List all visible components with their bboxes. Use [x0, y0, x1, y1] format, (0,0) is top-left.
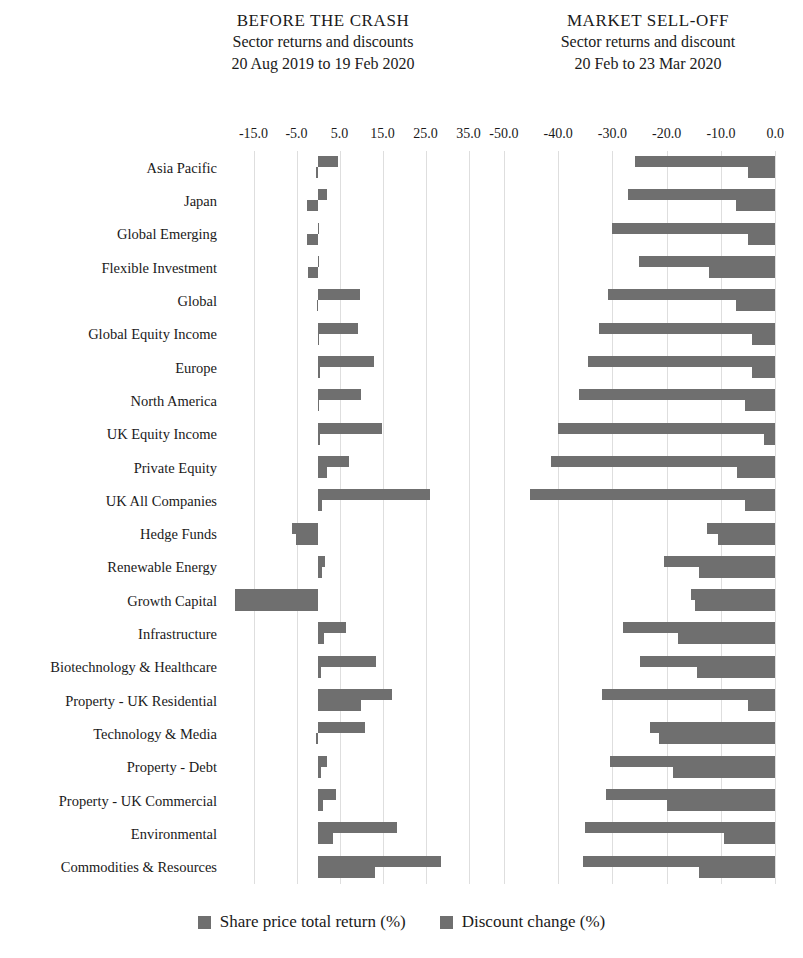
bar-discount-change — [736, 200, 775, 211]
category-label: Asia Pacific — [0, 160, 225, 176]
bar-discount-change — [748, 234, 775, 245]
bar-discount-change — [316, 733, 318, 744]
bar-discount-change — [678, 633, 776, 644]
bar-discount-change — [736, 300, 775, 311]
bar-discount-change — [697, 667, 776, 678]
gridline — [340, 151, 341, 884]
category-label: North America — [0, 393, 225, 409]
chart-container: BEFORE THE CRASH Sector returns and disc… — [0, 0, 803, 958]
right-panel-plot — [493, 151, 778, 884]
bar-discount-change — [748, 700, 775, 711]
axis-tick-label: -40.0 — [544, 126, 573, 142]
category-label: Global Emerging — [0, 226, 225, 242]
legend-item-share-price-total-return: Share price total return (%) — [198, 912, 406, 932]
bar-discount-change — [667, 800, 776, 811]
bar-discount-change — [318, 667, 321, 678]
bar-share-price-total-return — [318, 289, 360, 300]
bar-share-price-total-return — [318, 789, 336, 800]
category-label: UK All Companies — [0, 493, 225, 509]
bar-discount-change — [745, 500, 775, 511]
gridline — [426, 151, 427, 884]
bar-share-price-total-return — [707, 523, 775, 534]
right-panel-period: 20 Feb to 23 Mar 2020 — [498, 53, 798, 75]
category-label: Growth Capital — [0, 593, 225, 609]
bar-share-price-total-return — [612, 223, 775, 234]
bar-discount-change — [318, 434, 320, 445]
axis-tick-label: 15.0 — [370, 126, 395, 142]
bar-share-price-total-return — [639, 256, 775, 267]
axis-tick-label: -15.0 — [239, 126, 268, 142]
bar-discount-change — [318, 467, 327, 478]
category-label: Technology & Media — [0, 726, 225, 742]
bar-share-price-total-return — [318, 556, 325, 567]
axis-tick-label: -30.0 — [598, 126, 627, 142]
bar-share-price-total-return — [235, 589, 318, 600]
axis-tick-label: -50.0 — [489, 126, 518, 142]
axis-tick-label: 0.0 — [767, 126, 785, 142]
bar-share-price-total-return — [551, 456, 775, 467]
category-label: Renewable Energy — [0, 559, 225, 575]
axis-tick-label: 35.0 — [456, 126, 481, 142]
category-label: Commodities & Resources — [0, 859, 225, 875]
bar-discount-change — [318, 334, 319, 345]
axis-tick-label: -20.0 — [652, 126, 681, 142]
category-label: Japan — [0, 193, 225, 209]
bar-share-price-total-return — [318, 489, 430, 500]
bar-discount-change — [318, 633, 324, 644]
axis-tick-label: -5.0 — [285, 126, 307, 142]
bar-share-price-total-return — [628, 189, 776, 200]
bar-share-price-total-return — [579, 389, 775, 400]
category-axis-labels: Asia PacificJapanGlobal EmergingFlexible… — [0, 151, 225, 884]
right-panel-title: MARKET SELL-OFF — [498, 10, 798, 31]
bar-share-price-total-return — [318, 189, 327, 200]
left-panel-title: BEFORE THE CRASH — [148, 10, 498, 31]
bar-share-price-total-return — [318, 622, 346, 633]
bar-share-price-total-return — [318, 156, 338, 167]
bar-share-price-total-return — [588, 356, 775, 367]
bar-discount-change — [745, 400, 775, 411]
bar-discount-change — [318, 567, 322, 578]
bar-share-price-total-return — [606, 789, 775, 800]
bar-discount-change — [308, 267, 318, 278]
bar-share-price-total-return — [318, 656, 376, 667]
axis-tick-label: 25.0 — [413, 126, 438, 142]
legend-label: Share price total return (%) — [220, 912, 406, 932]
bar-discount-change — [318, 800, 323, 811]
bar-share-price-total-return — [635, 156, 775, 167]
bar-share-price-total-return — [558, 423, 775, 434]
category-label: Global Equity Income — [0, 326, 225, 342]
bar-discount-change — [296, 534, 318, 545]
bar-discount-change — [699, 567, 775, 578]
right-panel-x-axis: -50.0-40.0-30.0-20.0-10.00.0 — [493, 126, 778, 144]
bar-share-price-total-return — [318, 856, 441, 867]
bar-share-price-total-return — [318, 356, 374, 367]
bar-discount-change — [748, 167, 775, 178]
bar-share-price-total-return — [292, 523, 318, 534]
gridline — [383, 151, 384, 884]
bar-discount-change — [699, 867, 775, 878]
bar-discount-change — [709, 267, 776, 278]
bar-share-price-total-return — [585, 822, 775, 833]
bar-share-price-total-return — [318, 456, 349, 467]
bar-share-price-total-return — [599, 323, 775, 334]
bar-discount-change — [307, 234, 318, 245]
legend-item-discount-change: Discount change (%) — [440, 912, 606, 932]
bar-share-price-total-return — [608, 289, 775, 300]
gridline — [504, 151, 505, 884]
bar-discount-change — [318, 500, 322, 511]
bar-share-price-total-return — [318, 323, 358, 334]
bar-share-price-total-return — [691, 589, 775, 600]
chart-legend: Share price total return (%) Discount ch… — [0, 912, 803, 932]
category-label: Flexible Investment — [0, 260, 225, 276]
left-panel-title-block: BEFORE THE CRASH Sector returns and disc… — [148, 10, 498, 75]
gridline — [254, 151, 255, 884]
right-panel-subtitle: Sector returns and discount — [498, 31, 798, 53]
bar-share-price-total-return — [318, 756, 327, 767]
right-panel-title-block: MARKET SELL-OFF Sector returns and disco… — [498, 10, 798, 75]
gridline — [469, 151, 470, 884]
axis-tick-label: -10.0 — [706, 126, 735, 142]
bar-share-price-total-return — [610, 756, 776, 767]
bar-discount-change — [695, 600, 775, 611]
bar-discount-change — [737, 467, 775, 478]
bar-discount-change — [718, 534, 775, 545]
